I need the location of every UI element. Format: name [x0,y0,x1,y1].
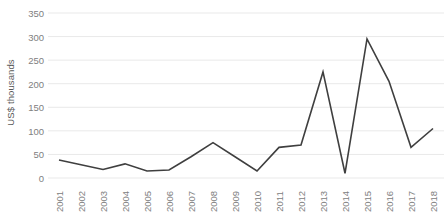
y-axis-tick-label: 100 [28,125,44,136]
y-axis-tick-label: 50 [33,149,44,160]
line-chart: US$ thousands 050100150200250300350 2001… [0,0,447,222]
y-axis-tick-labels: 050100150200250300350 [18,0,46,185]
x-axis-tick-text: 2018 [428,182,439,222]
plot-area [48,0,444,185]
y-axis-tick-label: 300 [28,31,44,42]
y-axis-title-label: US$ thousands [5,59,16,125]
y-axis-tick-label: 250 [28,55,44,66]
x-axis-tick-label: 2018 [413,182,447,220]
y-axis-tick-label: 350 [28,8,44,19]
gridlines [48,13,444,178]
plot-svg [48,0,444,185]
y-axis-tick-label: 150 [28,102,44,113]
y-axis-tick-label: 200 [28,78,44,89]
series-line-us-dollars-thousands [59,39,433,173]
x-axis-tick-labels: 2001200220032004200520062007200820092010… [48,182,444,222]
y-axis-title: US$ thousands [0,0,20,185]
